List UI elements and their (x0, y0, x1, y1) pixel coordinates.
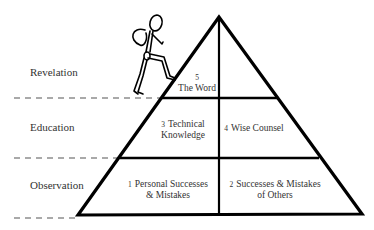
cell-number-2: 2 (229, 180, 233, 189)
cell-text-successes-mistakes: Successes & Mistakes (236, 179, 320, 189)
cell-number-4: 4 (224, 124, 228, 133)
cell-text-personal-successes: Personal Successes (135, 179, 208, 189)
level-label-observation: Observation (30, 179, 84, 191)
cell-number-5: 5 (176, 73, 218, 83)
cell-number-3: 3 (161, 120, 165, 129)
cell-others-successes: 2Successes & Mistakes of Others (220, 179, 330, 200)
cell-text-of-others: of Others (220, 190, 330, 200)
cell-wise-counsel: 4Wise Counsel (223, 123, 285, 134)
cell-personal-successes: 1Personal Successes & Mistakes (118, 179, 218, 200)
cell-number-1: 1 (128, 180, 132, 189)
level-label-revelation: Revelation (30, 66, 78, 78)
cell-the-word: 5 The Word (176, 73, 218, 93)
cell-technical-knowledge: 3Technical Knowledge (148, 119, 218, 140)
cell-text-mistakes: & Mistakes (118, 190, 218, 200)
level-label-education: Education (30, 121, 75, 133)
cell-text-technical: Technical (168, 119, 205, 129)
climber-figure (133, 14, 175, 94)
cell-text-knowledge: Knowledge (148, 130, 218, 140)
cell-text-the-word: The Word (176, 83, 218, 93)
cell-text-wise-counsel: Wise Counsel (231, 123, 284, 133)
